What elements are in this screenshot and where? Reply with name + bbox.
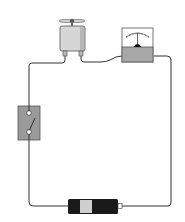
battery <box>68 199 122 214</box>
ammeter <box>122 28 153 62</box>
propeller-shaft <box>71 22 73 26</box>
battery-body <box>68 199 118 214</box>
wire-switch-to-battery <box>29 134 68 206</box>
wire-motor-to-switch <box>29 56 65 110</box>
switch <box>18 106 40 140</box>
switch-contact-top <box>27 111 32 116</box>
motor-terminal-right <box>79 51 83 56</box>
wire-battery-to-right <box>122 56 171 206</box>
battery-positive-terminal <box>118 204 122 209</box>
motor <box>59 19 85 56</box>
motor-terminal-left <box>63 51 67 56</box>
wire-meter-to-motor <box>81 56 122 62</box>
meter-base <box>122 47 153 62</box>
circuit-diagram <box>0 0 185 222</box>
motor-body-shade <box>80 27 84 50</box>
switch-contact-bottom <box>27 130 32 135</box>
battery-band <box>80 200 92 213</box>
wires <box>29 56 171 206</box>
